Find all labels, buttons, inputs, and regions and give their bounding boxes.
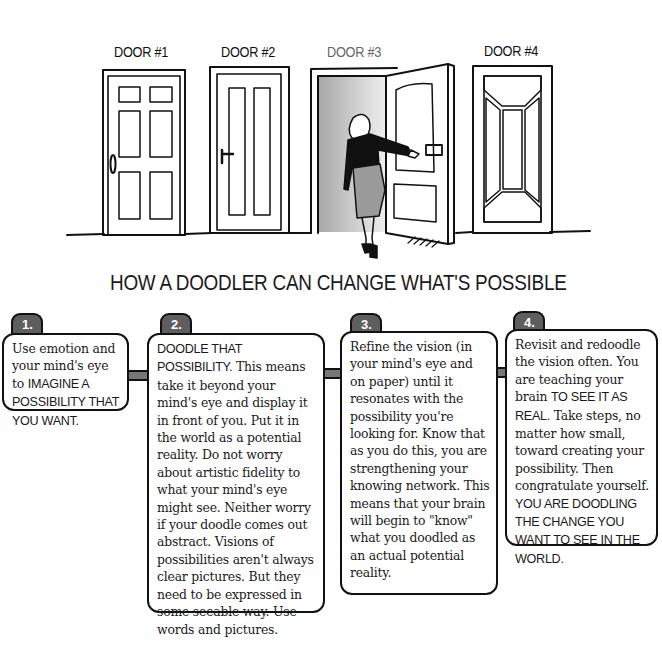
door-2 bbox=[210, 67, 289, 233]
step-1-card: Use emotion and your mind's eye to IMAGI… bbox=[2, 333, 129, 411]
step-1-emphasis: IMAGINE A POSSIBILITY THAT YOU WANT. bbox=[12, 377, 119, 428]
step-4-card: Revisit and redoodle the vision often. Y… bbox=[505, 329, 658, 546]
step-2-text: This means take it beyond your mind's ey… bbox=[157, 359, 314, 636]
door-3 bbox=[311, 64, 454, 247]
step-2-card: DOODLE THAT POSSIBILITY. This means take… bbox=[147, 333, 325, 613]
door-lever-icon bbox=[222, 150, 233, 163]
door-knob-icon bbox=[111, 155, 116, 173]
step-4-emphasis-b: YOU ARE DOODLING THE CHANGE YOU WANT TO … bbox=[515, 497, 640, 566]
doors-illustration bbox=[0, 0, 662, 260]
step-3-card: Refine the vision (in your mind's eye an… bbox=[340, 331, 498, 595]
step-3-text: Refine the vision (in your mind's eye an… bbox=[350, 339, 489, 580]
page-title: HOW A DOODLER CAN CHANGE WHAT'S POSSIBLE bbox=[110, 270, 497, 296]
door-4 bbox=[473, 66, 552, 233]
step-2-emphasis: DOODLE THAT POSSIBILITY. bbox=[157, 342, 242, 374]
skirt bbox=[353, 164, 385, 218]
door-1 bbox=[103, 70, 185, 235]
